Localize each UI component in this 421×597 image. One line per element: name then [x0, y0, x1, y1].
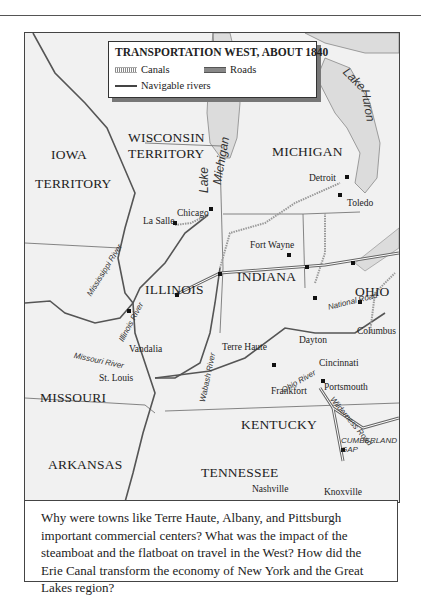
city-label-toledo: Toledo — [347, 198, 373, 208]
map-caption-box: Why were towns like Terre Haute, Albany,… — [24, 500, 398, 582]
legend-item-roads: Roads — [204, 64, 256, 75]
cincinnati-dot — [313, 296, 317, 300]
columbus-dot — [351, 261, 355, 265]
nashville-dot — [272, 363, 276, 367]
canal-line-icon — [115, 67, 137, 73]
state-label-wisconsin-territory: TERRITORY — [128, 146, 205, 162]
state-label-indiana: INDIANA — [237, 269, 296, 285]
lake-erie-shape — [355, 228, 399, 271]
city-label-terre-haute: Terre Haute — [222, 342, 267, 352]
map-base-svg — [25, 33, 399, 502]
city-label-cincinnati: Cincinnati — [319, 358, 359, 368]
state-label-iowa: IOWA — [51, 147, 87, 163]
ky-tn-border — [165, 403, 399, 411]
road-line-icon — [204, 67, 226, 73]
state-label-iowa-territory: TERRITORY — [35, 176, 112, 192]
state-label-michigan: MICHIGAN — [272, 144, 343, 160]
map-caption-text: Why were towns like Terre Haute, Albany,… — [41, 509, 386, 597]
wilderness-road — [320, 388, 399, 428]
ia-mo-border — [25, 243, 120, 248]
missouri-river — [25, 301, 133, 323]
route-label-cumberland-gap: CUMBERLAND — [341, 436, 397, 445]
city-label-knoxville: Knoxville — [324, 487, 362, 497]
city-label-portsmouth: Portsmouth — [324, 382, 368, 392]
ohio-river — [155, 313, 385, 378]
city-label-columbus: Columbus — [357, 326, 396, 336]
legend-item-canals: Canals — [115, 64, 170, 75]
page-top-rule — [0, 15, 421, 16]
mi-oh-border — [303, 212, 360, 214]
city-label-chicago: Chicago — [177, 208, 209, 218]
river-line-icon — [115, 85, 137, 87]
state-label-kentucky: KENTUCKY — [241, 417, 317, 433]
city-label-vandalia: Vandalia — [129, 344, 162, 354]
city-label-la-salle: La Salle — [143, 216, 174, 226]
city-label-st-louis: St. Louis — [99, 373, 133, 383]
terre-haute-dot — [218, 272, 222, 276]
route-label-cumberland-gap-2: GAP — [341, 445, 358, 454]
water-label-lake-michigan-1: Lake — [197, 167, 211, 193]
legend-item-navigable-rivers: Navigable rivers — [115, 80, 211, 91]
detroit-dot — [345, 175, 349, 179]
state-label-arkansas: ARKANSAS — [48, 457, 122, 473]
state-label-tennessee: TENNESSEE — [201, 465, 279, 481]
state-label-missouri: MISSOURI — [40, 390, 106, 406]
miami-erie-canal — [315, 213, 325, 283]
city-label-fort-wayne: Fort Wayne — [250, 240, 294, 250]
city-label-detroit: Detroit — [309, 173, 336, 183]
toledo-dot — [338, 193, 342, 197]
ohio-erie-canal — [370, 273, 395, 333]
state-label-wisconsin: WISCONSIN — [128, 130, 205, 146]
fort-wayne-dot — [287, 253, 291, 257]
chicago-dot — [209, 207, 213, 211]
wabash-erie-canal — [220, 183, 340, 268]
legend-title: TRANSPORTATION WEST, ABOUT 1840 — [115, 46, 328, 58]
city-label-dayton: Dayton — [299, 335, 327, 345]
city-label-nashville: Nashville — [252, 484, 288, 494]
state-label-illinois: ILLINOIS — [145, 282, 204, 298]
dayton-dot — [305, 265, 309, 269]
map-legend: TRANSPORTATION WEST, ABOUT 1840 Canals R… — [108, 41, 317, 98]
map-transportation-west: TRANSPORTATION WEST, ABOUT 1840 Canals R… — [24, 32, 400, 503]
